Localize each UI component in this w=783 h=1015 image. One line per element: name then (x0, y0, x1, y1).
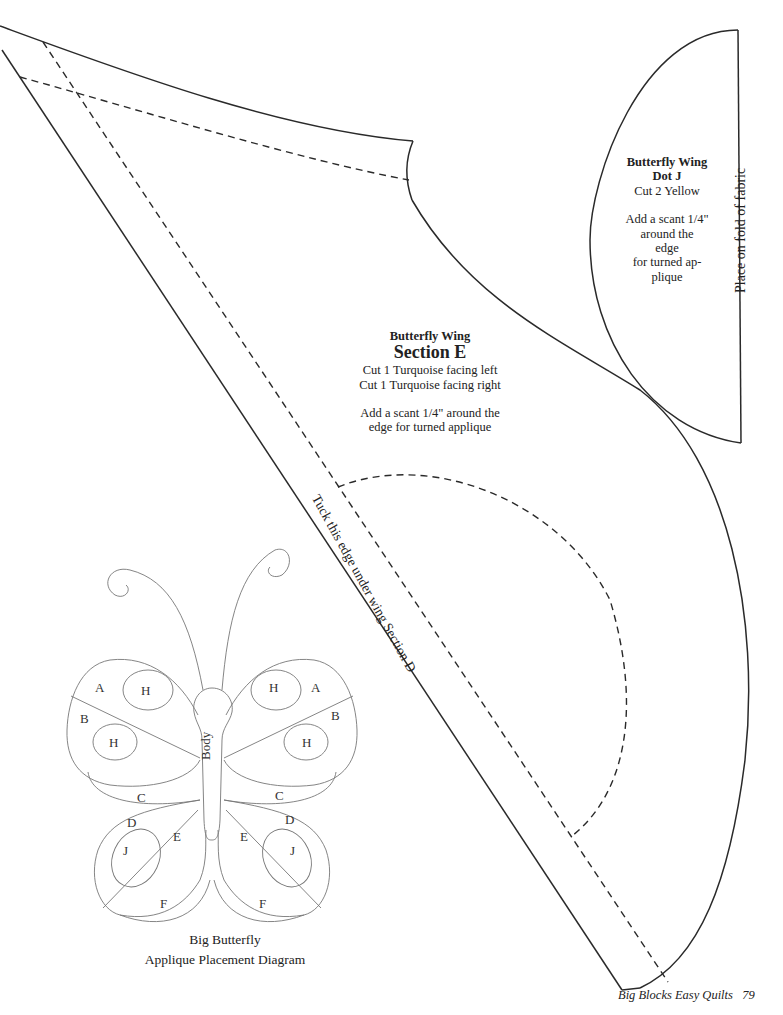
section-e-instructions: Butterfly Wing Section E Cut 1 Turquoise… (330, 329, 530, 435)
dot-j-title: Butterfly Wing (612, 155, 722, 169)
label-body: Body (198, 731, 213, 760)
label-b-left: B (80, 711, 89, 726)
label-j-left: J (123, 843, 128, 858)
label-h-ul2: H (109, 735, 118, 750)
label-f-left: F (160, 896, 167, 911)
section-e-title: Butterfly Wing (330, 329, 530, 343)
page-footer: Big Blocks Easy Quilts 79 (618, 988, 755, 1003)
seam-diagonal-dashed (43, 42, 668, 982)
label-e-left: E (173, 829, 181, 844)
label-e-right: E (240, 829, 248, 844)
antenna-left (108, 569, 203, 690)
caption-line-2: Applique Placement Diagram (100, 950, 350, 970)
section-e-note-line: edge for turned applique (330, 420, 530, 434)
label-a-left: A (95, 680, 105, 695)
dot-j-note-line: Add a scant 1/4" (612, 212, 722, 226)
section-e-outer-curve (412, 200, 749, 988)
book-title: Big Blocks Easy Quilts (618, 988, 733, 1002)
label-h-ur2: H (302, 735, 311, 750)
diagram-stroke (224, 696, 353, 758)
section-e-cut-line: Cut 1 Turquoise facing right (330, 378, 530, 392)
label-d-left: D (127, 815, 136, 830)
diagram-stroke (253, 821, 320, 895)
caption-line-1: Big Butterfly (100, 930, 350, 950)
label-h-ul1: H (141, 683, 150, 698)
label-c-right: C (275, 788, 284, 803)
label-j-right: J (290, 843, 295, 858)
diagram-caption: Big Butterfly Applique Placement Diagram (100, 930, 350, 969)
dot-j-cut: Cut 2 Yellow (612, 184, 722, 198)
diagram-stroke (226, 810, 321, 908)
dot-j-note-line: for turned ap- (612, 255, 722, 269)
dot-j-note-line: around the (612, 227, 722, 241)
dot-j-note-line: edge (612, 241, 722, 255)
label-d-right: D (285, 812, 294, 827)
section-e-note-line: Add a scant 1/4" around the (330, 406, 530, 420)
section-e-top-edge (0, 26, 413, 141)
seam-section-d-dashed (338, 475, 626, 836)
dot-j-instructions: Butterfly Wing Dot J Cut 2 Yellow Add a … (612, 155, 722, 284)
label-f-right: F (259, 896, 266, 911)
page-number: 79 (742, 988, 755, 1002)
section-e-subtitle: Section E (330, 343, 530, 363)
butterfly-diagram: A H B H H A B H C C D D E E J J F F Body (67, 549, 357, 921)
dot-j-note-line: plique (612, 270, 722, 284)
section-e-inner-edge (2, 50, 622, 990)
fold-label: Place on fold of fabric (733, 168, 749, 293)
antenna-right (222, 549, 289, 690)
section-e-cut-line: Cut 1 Turquoise facing left (330, 363, 530, 377)
label-h-ur1: H (269, 680, 278, 695)
label-a-right: A (311, 680, 321, 695)
dot-j-subtitle: Dot J (612, 169, 722, 183)
pattern-lines: A H B H H A B H C C D D E E J J F F Body (0, 0, 783, 1015)
diagram-stroke (102, 821, 169, 895)
label-b-right: B (331, 708, 340, 723)
section-e-notch (407, 141, 413, 200)
label-c-left: C (137, 790, 146, 805)
diagram-stroke (103, 810, 198, 908)
